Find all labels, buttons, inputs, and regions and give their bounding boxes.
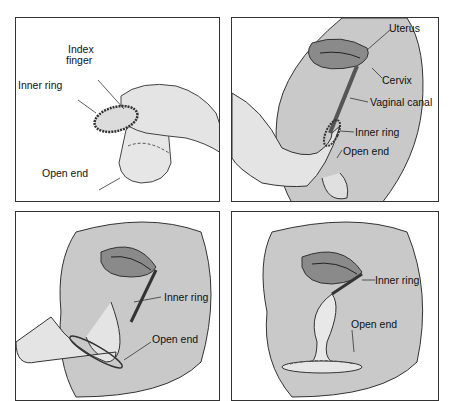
label-inner-ring: Inner ring	[164, 292, 208, 303]
label-open-end: Open end	[42, 168, 88, 179]
panel-step-1: Index finger Inner ring Open end	[15, 17, 220, 202]
panel-step-3: Inner ring Open end	[15, 211, 220, 401]
label-open-end: Open end	[152, 334, 198, 345]
panel-step-2: Uterus Cervix Vaginal canal Inner ring O…	[231, 17, 439, 202]
label-uterus: Uterus	[389, 23, 420, 34]
condom-in-place-illustration	[232, 212, 439, 401]
pushing-ring-illustration	[16, 212, 220, 401]
insertion-cross-section-illustration	[232, 18, 439, 202]
label-inner-ring: Inner ring	[18, 80, 62, 91]
label-index-finger-line2: finger	[66, 55, 92, 66]
label-open-end: Open end	[343, 146, 389, 157]
label-cervix: Cervix	[382, 75, 412, 86]
label-open-end: Open end	[351, 319, 397, 330]
label-inner-ring: Inner ring	[355, 127, 399, 138]
label-inner-ring: Inner ring	[375, 275, 419, 286]
panel-step-4: Inner ring Open end	[231, 211, 439, 401]
label-vaginal-canal: Vaginal canal	[370, 97, 432, 108]
